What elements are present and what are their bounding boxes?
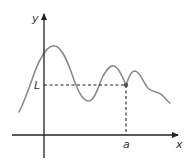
y-axis-label: y (31, 12, 39, 25)
limit-point (124, 83, 128, 87)
limit-diagram: y x L a (0, 0, 194, 167)
point-a-label: a (123, 138, 130, 151)
function-curve (19, 46, 170, 112)
x-axis-label: x (175, 138, 183, 151)
limit-label: L (34, 79, 40, 92)
